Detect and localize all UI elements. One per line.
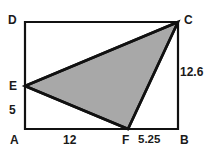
vertex-label-f: F [122, 134, 129, 146]
measure-label-fb: 5.25 [138, 134, 160, 146]
vertex-label-a: A [10, 134, 19, 146]
vertex-label-c: C [184, 14, 193, 26]
measure-label-bc: 12.6 [180, 66, 203, 78]
vertex-label-b: B [180, 134, 189, 146]
vertex-label-e: E [9, 80, 17, 92]
measure-label-af: 12 [63, 134, 76, 146]
vertex-label-d: D [8, 14, 17, 26]
geometry-figure: D C E A B F 5 12.6 12 5.25 [0, 0, 205, 154]
geometry-canvas [0, 0, 205, 154]
measure-label-ae: 5 [9, 104, 16, 116]
